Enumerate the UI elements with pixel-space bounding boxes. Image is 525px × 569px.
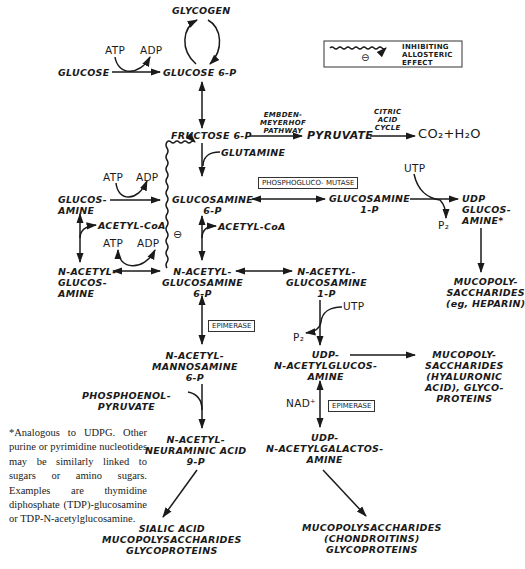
node-glucosamine: GLUCOS- AMINE xyxy=(58,194,107,216)
atp-adp-curve-1 xyxy=(115,57,150,71)
enzyme-phosphoglucomutase: PHOSPHOGLUCO- MUTASE xyxy=(258,177,358,189)
node-glucosamine-6p: GLUCOSAMINE 6-P xyxy=(172,194,253,216)
legend-inhibition-icon: ⊖ xyxy=(361,52,370,63)
node-n-acetylmannosamine-6p: N-ACETYL- MANNOSAMINE 6-P xyxy=(152,350,238,383)
cofactor-atp-3: ATP xyxy=(103,238,123,249)
node-co2-h2o: CO₂+H₂O xyxy=(418,128,481,139)
node-glucose-6p: GLUCOSE 6-P xyxy=(163,67,237,78)
cofactor-acetyl-coa-1: ACETYL-CoA xyxy=(98,220,166,231)
cofactor-adp-1: ADP xyxy=(140,45,163,56)
node-udp-n-acetylglucosamine: UDP- N-ACETYLGLUCOS- AMINE xyxy=(274,349,377,382)
enzyme-epimerase-1: EPIMERASE xyxy=(208,320,255,332)
node-udp-n-acetylgalactosamine: UDP- N-ACETYLGALACTOS- AMINE xyxy=(266,432,384,465)
cofactor-acetyl-coa-2: ACETYL-CoA xyxy=(218,221,286,232)
arrow-neuraminic-to-sialic xyxy=(163,470,197,517)
cofactor-nad-plus: NAD⁺ xyxy=(286,398,316,409)
atp-adp-curve-3 xyxy=(118,250,155,266)
enzyme-epimerase-2: EPIMERASE xyxy=(328,400,375,412)
acetylcoa-curve-2 xyxy=(202,226,216,238)
node-glutamine: GLUTAMINE xyxy=(221,147,285,158)
label-embden-meyerhof-pathway: EMBDEN- MEYERHOF PATHWAY xyxy=(260,111,306,135)
legend-wavy-arrow xyxy=(330,47,386,49)
inhibition-icon: ⊖ xyxy=(173,229,183,240)
cofactor-p2-2: P₂ xyxy=(293,332,304,343)
arrow-glycogen-to-g6p xyxy=(208,20,220,64)
cofactor-adp-2: ADP xyxy=(136,172,159,183)
node-pyruvate: PYRUVATE xyxy=(307,130,373,141)
legend-label: INHIBITING ALLOSTERIC EFFECT xyxy=(402,43,453,67)
utp-p2-curve-2 xyxy=(306,307,342,333)
node-n-acetylglucosamine-6p: N-ACETYL- GLUCOSAMINE 6-P xyxy=(162,266,243,299)
footnote: *Analogous to UDPG. Other purine or pyri… xyxy=(9,426,147,527)
node-glycogen: GLYCOGEN xyxy=(172,5,231,16)
cofactor-p2-1: P₂ xyxy=(438,220,449,231)
glutamine-curve xyxy=(203,152,220,166)
arrow-udpnacgaln-to-chondroitins xyxy=(323,470,366,516)
node-glucose: GLUCOSE xyxy=(58,67,110,78)
node-sialic-acid-products: SIALIC ACID MUCOPOLYSACCHARIDES GLYCOPRO… xyxy=(102,523,242,556)
node-n-acetylglucosamine-1p: N-ACETYL- GLUCOSAMINE 1-P xyxy=(286,266,367,299)
node-phosphoenolpyruvate: PHOSPHOENOL- PYRUVATE xyxy=(82,390,171,412)
cofactor-utp-1: UTP xyxy=(404,163,425,174)
node-mucopolysaccharides-heparin: MUCOPOLY- SACCHARIDES (eg, HEPARIN) xyxy=(446,276,525,309)
cofactor-utp-2: UTP xyxy=(343,301,364,312)
cofactor-atp-2: ATP xyxy=(103,172,123,183)
node-mucopolysaccharides-hyaluronic: MUCOPOLY- SACCHARIDES (HYALURONIC ACID),… xyxy=(425,349,504,404)
node-chondroitin-products: MUCOPOLYSACCHARIDES (CHONDROITINS) GLYCO… xyxy=(302,522,442,555)
node-udp-glucosamine: UDP GLUCOS- AMINE* xyxy=(462,193,511,226)
utp-p2-curve-1 xyxy=(414,174,446,218)
cofactor-adp-3: ADP xyxy=(137,238,160,249)
cofactor-atp-1: ATP xyxy=(105,45,125,56)
node-n-acetylglucosamine: N-ACETYL- GLUCOS- AMINE xyxy=(58,266,116,299)
acetylcoa-curve-1 xyxy=(80,225,96,238)
arrow-g6p-to-glycogen xyxy=(185,20,197,64)
label-citric-acid-cycle: CITRIC ACID CYCLE xyxy=(374,108,401,132)
node-fructose-6p: FRUCTOSE 6-P xyxy=(171,130,252,141)
node-n-acetylneuraminic-acid-9p: N-ACETYL- NEURAMINIC ACID 9-P xyxy=(145,434,247,467)
node-glucosamine-1p: GLUCOSAMINE 1-P xyxy=(329,193,410,215)
pep-curve xyxy=(188,392,202,410)
atp-adp-curve-2 xyxy=(116,181,147,197)
